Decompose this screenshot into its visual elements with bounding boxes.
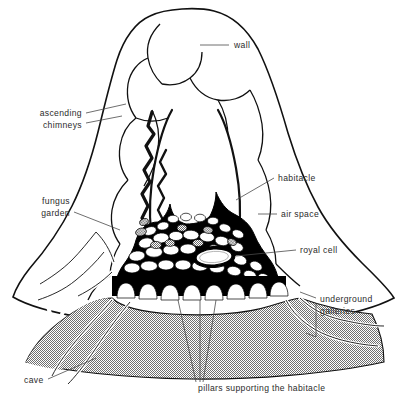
label-underground-galleries-line1: underground xyxy=(320,294,373,304)
label-ascending-chimneys-line2: chimneys xyxy=(43,120,82,130)
label-air-space: air space xyxy=(281,209,319,219)
label-fungus-garden-line2: garden xyxy=(41,208,70,218)
termite-mound-figure: wall ascending chimneys habitacle air sp… xyxy=(0,0,413,405)
label-habitacle: habitacle xyxy=(278,173,316,183)
label-underground-galleries-line2: galleries xyxy=(320,306,355,316)
pillar-row xyxy=(112,276,288,300)
label-ascending-chimneys-line1: ascending xyxy=(40,108,82,118)
leader-ascending-chimneys xyxy=(86,104,126,123)
label-wall: wall xyxy=(233,40,250,50)
label-fungus-garden-line1: fungus xyxy=(42,196,70,206)
label-pillars-supporting-the-habitacle: pillars supporting the habitacle xyxy=(198,383,325,393)
label-cave: cave xyxy=(24,375,44,385)
label-royal-cell: royal cell xyxy=(300,245,337,255)
diagram-canvas: wall ascending chimneys habitacle air sp… xyxy=(0,0,413,405)
